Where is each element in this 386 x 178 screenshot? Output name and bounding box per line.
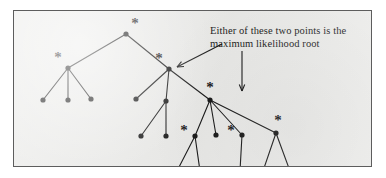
tree-leaf-node [213,132,218,137]
star-marker-icon: * [131,15,139,31]
arrowhead-left-icon [177,66,184,67]
annotation-caption-text: Either of these two points is the maximu… [210,25,346,49]
tree-edge [195,100,210,136]
tree-edge [169,69,210,100]
tree-internal-node [163,98,168,103]
tree-internal-node [123,31,128,36]
star-marker-icon: * [274,112,282,128]
annotation-caption: Either of these two points is the maximu… [210,25,372,50]
tree-leaf-node [40,97,45,102]
tree-internal-node [65,65,70,70]
tree-leaf-node [88,96,93,101]
tree-leaf-node [138,133,143,138]
figure-plate: ******* Either of these two points is th… [13,10,372,167]
star-marker-icon: * [227,122,235,138]
tree-edge [210,100,276,133]
tree-edge [141,101,166,136]
tree-internal-node [273,130,278,135]
star-marker-icon: * [155,50,163,66]
tree-edge [43,68,68,100]
star-marker-icon: * [54,49,62,65]
tree-internal-node [239,132,244,137]
tree-edge [166,69,169,101]
star-marker-icon: * [206,79,214,95]
tree-edge [68,68,91,99]
tree-edge [195,136,200,167]
tree-internal-node [192,133,197,138]
tree-edge [177,136,195,167]
star-marker-icon: * [180,122,188,138]
tree-edge [240,135,242,167]
tree-nodes [40,31,292,167]
figure-container: ******* Either of these two points is th… [0,0,386,178]
tree-edge [136,69,169,99]
tree-internal-node [207,97,212,102]
tree-edge [263,133,276,167]
tree-edge [276,133,290,167]
tree-leaf-node [133,96,138,101]
tree-internal-node [166,66,171,71]
tree-leaf-node [65,97,70,102]
tree-leaf-node [163,133,168,138]
tree-edge [68,34,126,68]
